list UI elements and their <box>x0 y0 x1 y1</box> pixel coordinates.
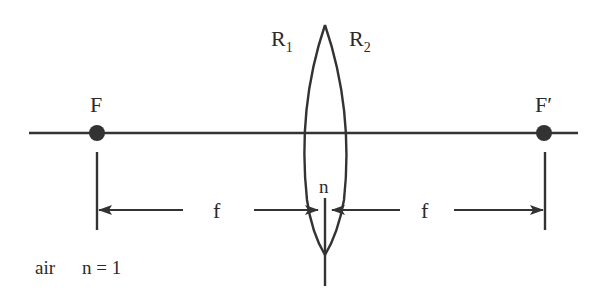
focal-point-f-prime-dot <box>536 125 552 141</box>
label-focal-length-right: f <box>421 198 429 223</box>
label-r2: R2 <box>349 26 371 55</box>
focal-point-f-dot <box>89 125 105 141</box>
label-medium: air <box>35 257 56 278</box>
label-focal-length-left: f <box>213 198 221 223</box>
label-r1: R1 <box>271 26 293 55</box>
label-medium-index: n = 1 <box>82 257 121 278</box>
lens-surface-r2 <box>325 25 346 255</box>
label-refractive-index: n <box>319 176 329 197</box>
label-focal-point-f-prime: F′ <box>535 92 552 117</box>
label-focal-point-f: F <box>90 92 102 117</box>
lens-diagram: R1 R2 F F′ n f f air n = 1 <box>0 0 606 308</box>
lens-surface-r1 <box>304 25 325 255</box>
